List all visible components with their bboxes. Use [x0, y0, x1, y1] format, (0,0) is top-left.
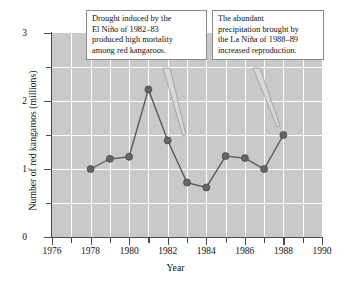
data-point — [164, 137, 171, 144]
callout-line: produced high mortality — [92, 35, 202, 46]
callout-line: among red kangaroos. — [92, 46, 202, 57]
data-point — [261, 166, 268, 173]
callout-line: the La Niña of 1988–89 — [218, 35, 319, 46]
data-point — [145, 86, 152, 93]
data-point — [280, 132, 287, 139]
data-point — [87, 166, 94, 173]
data-point — [184, 179, 191, 186]
callout-line: Drought induced by the — [92, 14, 202, 25]
data-point — [106, 155, 113, 162]
data-point — [126, 153, 133, 160]
precipitation-callout: The abundantprecipitation brought bythe … — [212, 10, 324, 60]
callout-line: precipitation brought by — [218, 25, 319, 36]
drought-callout: Drought induced by theEl Niño of 1982–83… — [86, 10, 207, 60]
data-point — [203, 184, 210, 191]
series-line — [91, 89, 284, 187]
callout-line: increased reproduction. — [218, 46, 319, 57]
data-point — [241, 155, 248, 162]
kangaroo-population-figure: 0123 19761978198019821984198619881990 Dr… — [0, 0, 351, 284]
callout-line: The abundant — [218, 14, 319, 25]
data-point — [222, 153, 229, 160]
callout-line: El Niño of 1982–83 — [92, 25, 202, 36]
